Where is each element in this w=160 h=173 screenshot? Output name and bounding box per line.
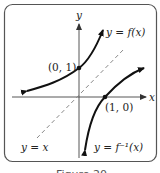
identity-line-label: y = x: [20, 141, 48, 153]
point-0-1: [77, 66, 82, 71]
f-inverse-point-label: (1, 0): [105, 101, 133, 113]
figure-caption: Figure 20: [56, 168, 107, 173]
f-point-label: (0, 1): [48, 61, 76, 73]
point-1-0: [103, 95, 108, 100]
inverse-function-diagram: y x y = f(x) (0, 1) (1, 0) y = f⁻¹(x) y …: [0, 0, 160, 173]
y-axis-label: y: [75, 9, 83, 21]
f-inverse-curve-label: y = f⁻¹(x): [93, 141, 143, 153]
f-curve-label: y = f(x): [105, 26, 145, 38]
x-axis-label: x: [149, 91, 155, 103]
